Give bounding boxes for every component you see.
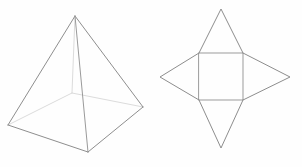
- net-triangle-top: [199, 9, 243, 53]
- pyramid-hidden-edges: [8, 16, 143, 125]
- net-triangle-right: [243, 53, 290, 100]
- pyramid-base-edge-front-right: [88, 107, 143, 152]
- figure-canvas: [0, 0, 302, 167]
- square-pyramid-3d: [8, 16, 143, 152]
- net-triangle-left: [160, 53, 199, 100]
- square-pyramid-net: [160, 9, 290, 148]
- pyramid-base-edge-left-front: [8, 125, 88, 152]
- net-square-base-face: [199, 53, 243, 100]
- pyramid-edge-apex-front: [75, 16, 88, 152]
- geometry-figure-svg: [0, 0, 302, 167]
- pyramid-visible-edges: [8, 16, 143, 152]
- pyramid-hidden-edge-apex-back: [72, 16, 75, 93]
- pyramid-edge-apex-right: [75, 16, 143, 107]
- net-triangle-bottom: [199, 100, 243, 148]
